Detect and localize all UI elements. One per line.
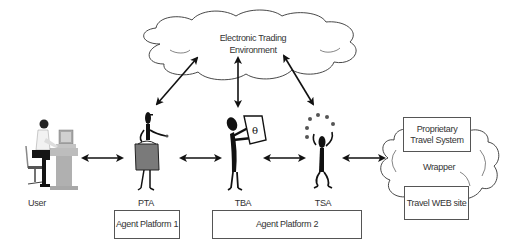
agent-platform-2-box: Agent Platform 2 — [212, 210, 362, 239]
user-label: User — [27, 198, 47, 208]
electronic-trading-label: Electronic Trading Environment — [208, 32, 298, 56]
tsa-agent-icon — [305, 113, 335, 188]
tsa-label: TSA — [313, 198, 333, 208]
svg-text:θ: θ — [252, 125, 258, 136]
travel-web-site-box: Travel WEB site — [404, 186, 469, 220]
pta-label: PTA — [136, 198, 156, 208]
cloud-line-2: Environment — [208, 44, 298, 56]
tba-agent-icon: θ — [225, 116, 266, 190]
tba-label: TBA — [233, 198, 253, 208]
wrapper-label: Wrapper — [414, 162, 464, 172]
proprietary-line-1: Proprietary — [417, 124, 458, 135]
proprietary-travel-system-box: Proprietary Travel System — [403, 117, 471, 152]
cloud-line-1: Electronic Trading — [208, 32, 298, 44]
pta-agent-icon — [135, 112, 169, 190]
agent-platform-1-box: Agent Platform 1 — [114, 210, 180, 239]
user-at-computer-icon — [26, 120, 78, 191]
proprietary-line-2: Travel System — [410, 135, 463, 146]
